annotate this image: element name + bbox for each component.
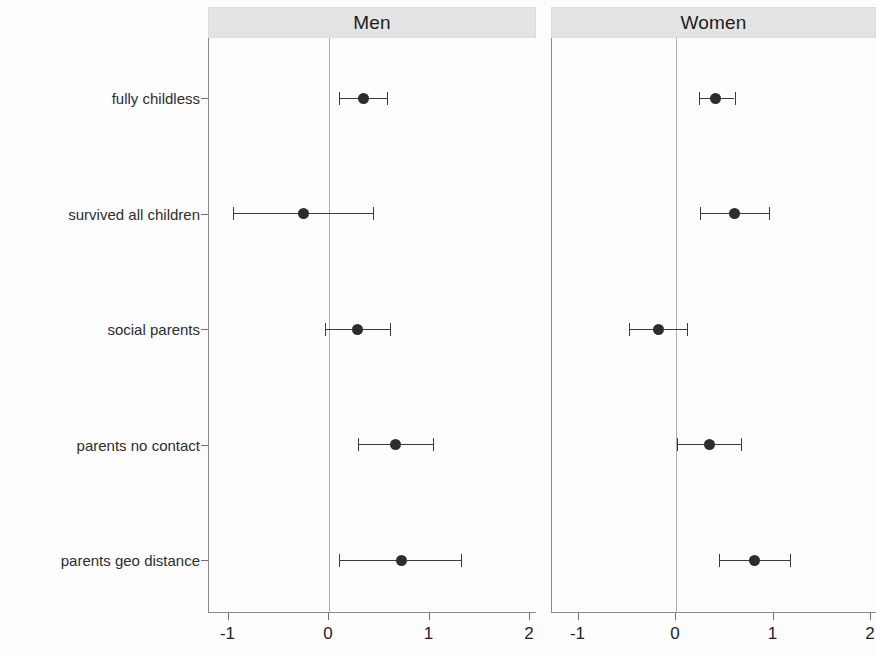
x-axis-tick-label-men-2: 1 [424, 624, 433, 644]
ci-cap-lower [339, 92, 340, 105]
x-axis-tick-label-men-0: -1 [220, 624, 235, 644]
ci-cap-lower [700, 207, 701, 220]
y-axis-label-1: survived all children [68, 205, 200, 222]
ci-cap-upper [390, 323, 391, 336]
x-axis-tick-women-1 [675, 613, 676, 620]
y-axis-tick-0 [201, 98, 208, 99]
ci-cap-upper [461, 554, 462, 567]
ci-cap-upper [433, 438, 434, 451]
interval-men-1 [209, 213, 536, 215]
x-axis-tick-label-women-0: -1 [570, 624, 585, 644]
y-axis-label-3: parents no contact [77, 436, 200, 453]
y-axis-tick-2 [201, 329, 208, 330]
y-axis-tick-4 [201, 560, 208, 561]
ci-cap-upper [387, 92, 388, 105]
ci-cap-upper [687, 323, 688, 336]
y-axis-tick-1 [201, 214, 208, 215]
interval-women-4 [552, 559, 876, 561]
interval-men-0 [209, 97, 536, 99]
panel-women-plot-area [552, 38, 876, 612]
ci-cap-lower [699, 92, 700, 105]
point-estimate-marker [653, 324, 664, 335]
point-estimate-marker [358, 93, 369, 104]
ci-cap-upper [790, 554, 791, 567]
x-axis-tick-men-3 [529, 613, 530, 620]
ci-cap-lower [358, 438, 359, 451]
ci-cap-lower [233, 207, 234, 220]
facet-strip-women-label: Women [680, 12, 746, 34]
ci-cap-lower [719, 554, 720, 567]
x-axis-tick-label-women-3: 2 [865, 624, 874, 644]
ci-cap-upper [735, 92, 736, 105]
panel-women [551, 38, 876, 613]
interval-women-2 [552, 328, 876, 330]
point-estimate-marker [390, 439, 401, 450]
ci-cap-upper [741, 438, 742, 451]
ci-cap-lower [339, 554, 340, 567]
ci-cap-upper [769, 207, 770, 220]
panel-men [208, 38, 536, 613]
x-axis-tick-label-women-1: 0 [670, 624, 679, 644]
point-estimate-marker [710, 93, 721, 104]
interval-women-0 [552, 97, 876, 99]
point-estimate-marker [749, 555, 760, 566]
x-axis-tick-label-men-1: 0 [323, 624, 332, 644]
x-axis-tick-men-2 [429, 613, 430, 620]
forest-plot-figure: Men Women fully childlesssurvived all ch… [0, 0, 876, 658]
interval-men-2 [209, 328, 536, 330]
y-axis-label-4: parents geo distance [61, 552, 200, 569]
x-axis-tick-men-1 [328, 613, 329, 620]
interval-women-1 [552, 213, 876, 215]
ci-cap-upper [373, 207, 374, 220]
interval-women-3 [552, 444, 876, 446]
x-axis-tick-women-0 [578, 613, 579, 620]
ci-cap-lower [629, 323, 630, 336]
x-axis-tick-label-women-2: 1 [768, 624, 777, 644]
x-axis-tick-label-men-3: 2 [524, 624, 533, 644]
y-axis-label-0: fully childless [112, 90, 200, 107]
x-axis-tick-women-3 [870, 613, 871, 620]
point-estimate-marker [704, 439, 715, 450]
facet-strip-men: Men [208, 7, 536, 38]
interval-men-4 [209, 559, 536, 561]
point-estimate-marker [729, 208, 740, 219]
point-estimate-marker [298, 208, 309, 219]
zero-reference-line-women [676, 38, 677, 612]
ci-cap-lower [325, 323, 326, 336]
panel-men-plot-area [209, 38, 536, 612]
zero-reference-line-men [329, 38, 330, 612]
x-axis-tick-men-0 [228, 613, 229, 620]
x-axis-tick-women-2 [773, 613, 774, 620]
ci-cap-lower [677, 438, 678, 451]
point-estimate-marker [396, 555, 407, 566]
y-axis-label-2: social parents [107, 321, 200, 338]
y-axis-tick-3 [201, 445, 208, 446]
point-estimate-marker [352, 324, 363, 335]
interval-men-3 [209, 444, 536, 446]
facet-strip-women: Women [551, 7, 876, 38]
facet-strip-men-label: Men [353, 12, 391, 34]
